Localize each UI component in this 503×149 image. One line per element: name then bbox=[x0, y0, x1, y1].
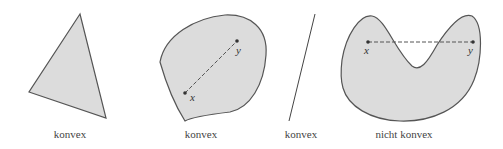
convexity-diagram bbox=[0, 0, 503, 149]
triangle-shape bbox=[29, 14, 106, 118]
line-segment-shape bbox=[289, 14, 315, 121]
point-y-label: y bbox=[236, 44, 241, 56]
point-y-dot bbox=[235, 39, 239, 43]
triangle-caption: konvex bbox=[54, 128, 86, 140]
convex-blob-shape bbox=[160, 15, 266, 121]
point-x-label: x bbox=[190, 91, 195, 103]
convex-blob-caption: konvex bbox=[185, 128, 217, 140]
point-x-label: x bbox=[364, 44, 369, 56]
nonconvex-blob-shape bbox=[341, 15, 481, 121]
point-y-label: y bbox=[468, 44, 473, 56]
nonconvex-blob-caption: nicht konvex bbox=[375, 128, 432, 140]
point-x-dot bbox=[183, 91, 187, 95]
line-segment-caption: konvex bbox=[285, 128, 317, 140]
